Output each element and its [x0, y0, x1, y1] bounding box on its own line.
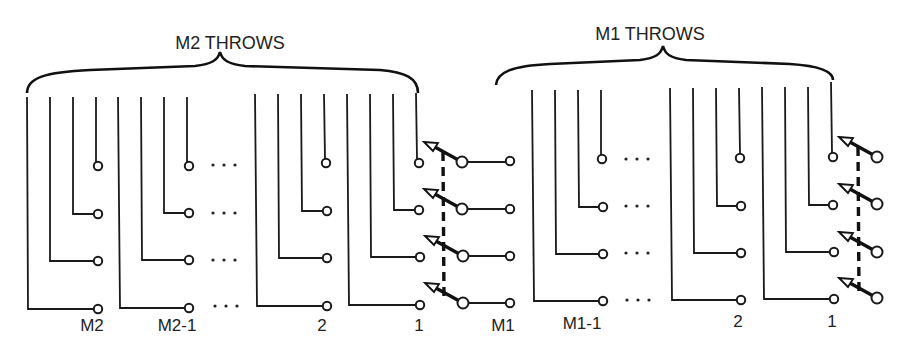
m1-gang-switch: [839, 137, 883, 304]
terminal: [599, 203, 607, 211]
terminal: [599, 297, 607, 305]
m2-group-m2: [27, 97, 102, 313]
label-m1-group-1: 1: [827, 312, 836, 331]
mechanical-link-dashed: [858, 147, 859, 295]
switch-pole: [839, 137, 883, 163]
switch-pole: [425, 236, 514, 262]
terminal: [506, 252, 514, 260]
label-m2-group-1: 1: [414, 316, 423, 335]
label-m1-group-2: 2: [733, 312, 742, 331]
terminal: [94, 162, 102, 170]
terminal: [737, 249, 745, 257]
terminal: [830, 248, 838, 256]
m1-group-1: [762, 82, 838, 303]
terminal: [737, 296, 745, 304]
terminal: [416, 253, 424, 261]
terminal: [506, 299, 514, 307]
label-m1: M1: [491, 316, 515, 335]
terminal: [415, 206, 423, 214]
terminal: [829, 201, 837, 209]
m2-gang-switch: [424, 142, 514, 309]
terminal: [599, 250, 607, 258]
m1-group-2: [670, 88, 745, 304]
switch-pole: [839, 184, 883, 210]
mechanical-link-dashed: [443, 152, 444, 300]
m2-throws-brace: [27, 52, 418, 93]
terminal: [736, 154, 744, 162]
terminal: [506, 205, 514, 213]
terminal: [415, 159, 423, 167]
terminal: [322, 159, 330, 167]
m2-group-1: [347, 93, 424, 309]
terminal: [323, 302, 331, 310]
terminal: [829, 153, 837, 161]
label-m2: M2: [80, 316, 104, 335]
m2-throws-title: M2 THROWS: [175, 33, 285, 53]
m2-group-2: [255, 94, 331, 310]
m2-ellipsis: [211, 163, 238, 307]
terminal: [94, 305, 102, 313]
switch-pole: [425, 283, 514, 309]
terminal: [185, 304, 193, 312]
m1-ellipsis: [624, 157, 650, 301]
label-m2-minus-1: M2-1: [158, 316, 197, 335]
terminal: [323, 254, 331, 262]
terminal: [185, 162, 193, 170]
label-m2-group-2: 2: [317, 316, 326, 335]
label-m1-minus-1: M1-1: [563, 314, 602, 333]
terminal: [737, 202, 745, 210]
switch-pole: [839, 232, 883, 258]
terminal: [598, 155, 606, 163]
switch-pole: [839, 278, 883, 304]
terminal: [830, 295, 838, 303]
terminal: [185, 209, 193, 217]
m2-group-m2-minus-1: [118, 97, 193, 312]
switch-schematic: M2 THROWS M2 M2-1 2: [0, 0, 908, 350]
terminal: [185, 256, 193, 264]
terminal: [323, 207, 331, 215]
m1-group-m1-minus-1: [532, 90, 607, 305]
m1-throws-brace: [496, 46, 833, 85]
terminal: [416, 301, 424, 309]
m1-throws-title: M1 THROWS: [595, 24, 705, 44]
switch-pole: [424, 142, 514, 168]
terminal: [94, 210, 102, 218]
terminal: [506, 157, 514, 165]
terminal: [94, 257, 102, 265]
switch-pole: [424, 189, 514, 215]
